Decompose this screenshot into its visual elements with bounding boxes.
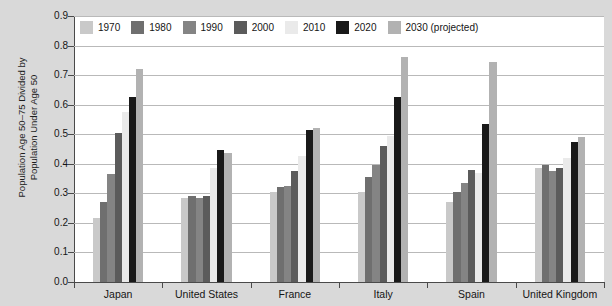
bar-group: [270, 16, 320, 282]
bar: [358, 192, 365, 282]
legend-swatch: [285, 21, 298, 34]
bar: [115, 133, 122, 282]
bar: [224, 153, 231, 282]
legend-swatch: [80, 21, 93, 34]
bar: [100, 202, 107, 282]
legend-label: 2020: [354, 22, 376, 33]
y-axis-tick-label: 0.7: [30, 69, 68, 80]
legend-item[interactable]: 1970: [80, 21, 120, 34]
bar-group: [535, 16, 585, 282]
bar: [210, 168, 217, 282]
bar: [453, 192, 460, 282]
bar: [549, 171, 556, 282]
legend-swatch: [183, 21, 196, 34]
bar: [578, 137, 585, 282]
legend-item[interactable]: 2010: [285, 21, 325, 34]
bar: [563, 158, 570, 282]
y-axis-tick-label: 0.5: [30, 128, 68, 139]
chart-legend: 1970198019902000201020202030 (projected): [74, 16, 604, 38]
legend-swatch: [388, 21, 401, 34]
legend-label: 2030 (projected): [406, 22, 479, 33]
bar-group-container: [74, 16, 604, 282]
x-axis-category-label: Spain: [458, 288, 485, 300]
bar: [217, 150, 224, 282]
x-axis-tick: [604, 282, 605, 288]
bar: [129, 97, 136, 282]
legend-swatch: [234, 21, 247, 34]
bar: [542, 165, 549, 282]
legend-label: 1980: [149, 22, 171, 33]
legend-item[interactable]: 1990: [183, 21, 223, 34]
bar: [394, 97, 401, 282]
bar: [122, 112, 129, 282]
x-axis-tick: [516, 282, 517, 288]
bar: [468, 170, 475, 282]
legend-label: 1990: [201, 22, 223, 33]
bar: [401, 57, 408, 282]
legend-label: 1970: [98, 22, 120, 33]
chart-root: Population Age 50–75 Divided by Populati…: [0, 0, 612, 306]
bar-group: [446, 16, 496, 282]
bar: [387, 136, 394, 282]
bar: [298, 156, 305, 282]
legend-item[interactable]: 2030 (projected): [388, 21, 479, 34]
bar: [365, 177, 372, 282]
bar-group: [358, 16, 408, 282]
bar: [196, 198, 203, 282]
legend-swatch: [336, 21, 349, 34]
legend-label: 2010: [303, 22, 325, 33]
bar: [489, 62, 496, 282]
bar-group: [93, 16, 143, 282]
bar: [188, 196, 195, 282]
x-axis-tick: [74, 282, 75, 288]
bar: [313, 128, 320, 282]
bar: [93, 218, 100, 282]
y-axis-tick-label: 0.3: [30, 187, 68, 198]
bar: [277, 187, 284, 282]
bar: [306, 130, 313, 282]
legend-item[interactable]: 1980: [131, 21, 171, 34]
x-axis-category-label: France: [278, 288, 311, 300]
x-axis-category-label: United States: [175, 288, 238, 300]
bar: [475, 173, 482, 282]
bar: [535, 168, 542, 282]
legend-swatch: [131, 21, 144, 34]
bar: [136, 69, 143, 282]
x-axis-tick: [251, 282, 252, 288]
x-axis-tick: [427, 282, 428, 288]
y-axis-tick-label: 0.9: [30, 10, 68, 21]
bar: [203, 196, 210, 282]
y-axis-tick-label: 0.0: [30, 276, 68, 287]
bar: [556, 168, 563, 282]
legend-label: 2000: [252, 22, 274, 33]
bar: [181, 198, 188, 282]
legend-item[interactable]: 2020: [336, 21, 376, 34]
y-axis-tick-label: 0.6: [30, 98, 68, 109]
bar: [291, 171, 298, 282]
x-axis-category-label: United Kingdom: [522, 288, 597, 300]
bar: [461, 183, 468, 282]
x-axis-tick: [162, 282, 163, 288]
bar: [372, 165, 379, 282]
bar-group: [181, 16, 231, 282]
x-axis-tick: [339, 282, 340, 288]
bar: [380, 146, 387, 282]
bar: [284, 186, 291, 282]
bar: [107, 174, 114, 282]
y-axis-tick-label: 0.4: [30, 157, 68, 168]
y-axis-tick-label: 0.8: [30, 39, 68, 50]
y-axis-tick-label: 0.1: [30, 246, 68, 257]
bar: [571, 142, 578, 282]
bar: [270, 192, 277, 282]
y-axis-tick-label: 0.2: [30, 216, 68, 227]
x-axis-category-label: Italy: [374, 288, 393, 300]
x-axis-category-label: Japan: [104, 288, 133, 300]
legend-item[interactable]: 2000: [234, 21, 274, 34]
bar: [446, 202, 453, 282]
bar: [482, 124, 489, 282]
